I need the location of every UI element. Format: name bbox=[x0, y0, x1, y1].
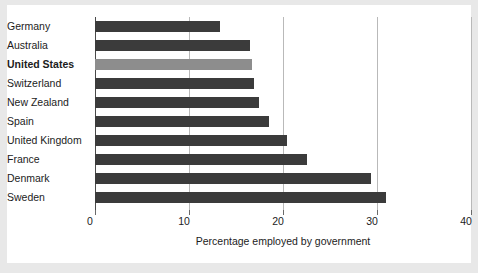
category-label-germany: Germany bbox=[7, 17, 91, 36]
bar-row bbox=[95, 188, 471, 207]
category-axis-labels: GermanyAustraliaUnited StatesSwitzerland… bbox=[7, 17, 91, 210]
plot-area bbox=[95, 17, 471, 210]
bar-row bbox=[95, 150, 471, 169]
category-label-sweden: Sweden bbox=[7, 188, 91, 207]
bar-france bbox=[95, 154, 307, 165]
tick-mark-0 bbox=[95, 210, 96, 215]
bar-row bbox=[95, 169, 471, 188]
bar-sweden bbox=[95, 192, 386, 203]
tick-label-0: 0 bbox=[87, 215, 93, 227]
bar-row bbox=[95, 131, 471, 150]
bar-switzerland bbox=[95, 78, 254, 89]
bar-row bbox=[95, 36, 471, 55]
gridline-40 bbox=[471, 17, 472, 210]
x-axis-title: Percentage employed by government bbox=[95, 235, 471, 247]
category-label-new-zealand: New Zealand bbox=[7, 93, 91, 112]
bar-united-states bbox=[95, 59, 252, 70]
bar-spain bbox=[95, 116, 269, 127]
bar-denmark bbox=[95, 173, 371, 184]
tick-label-10: 10 bbox=[178, 215, 190, 227]
chart-card: GermanyAustraliaUnited StatesSwitzerland… bbox=[7, 5, 471, 263]
bar-row bbox=[95, 93, 471, 112]
bar-row bbox=[95, 112, 471, 131]
bar-germany bbox=[95, 21, 220, 32]
bar-row bbox=[95, 74, 471, 93]
bar-australia bbox=[95, 40, 250, 51]
bar-new-zealand bbox=[95, 97, 259, 108]
category-label-australia: Australia bbox=[7, 36, 91, 55]
bar-row bbox=[95, 17, 471, 36]
category-label-switzerland: Switzerland bbox=[7, 74, 91, 93]
bar-row bbox=[95, 55, 471, 74]
category-label-united-states: United States bbox=[7, 55, 91, 74]
category-label-france: France bbox=[7, 150, 91, 169]
bar-united-kingdom bbox=[95, 135, 287, 146]
tick-label-20: 20 bbox=[272, 215, 284, 227]
tick-label-40: 40 bbox=[460, 215, 472, 227]
category-label-denmark: Denmark bbox=[7, 169, 91, 188]
category-label-spain: Spain bbox=[7, 112, 91, 131]
category-label-united-kingdom: United Kingdom bbox=[7, 131, 91, 150]
chart-figure: GermanyAustraliaUnited StatesSwitzerland… bbox=[0, 0, 478, 273]
tick-label-30: 30 bbox=[366, 215, 378, 227]
